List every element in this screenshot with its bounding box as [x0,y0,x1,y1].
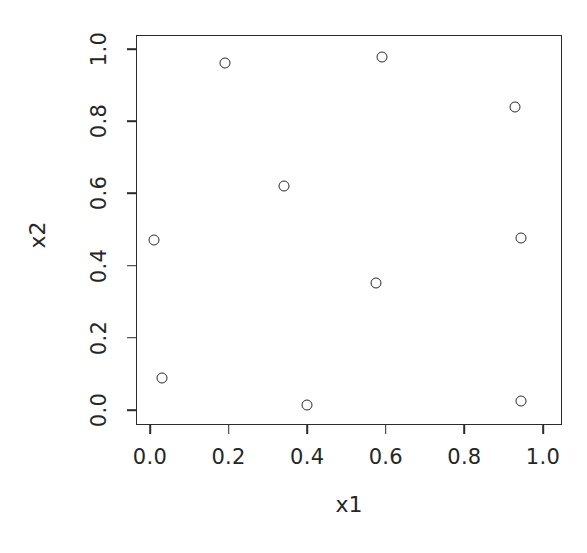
data-point [516,396,527,407]
y-axis-title: x2 [27,221,49,248]
y-axis-tick [127,337,136,339]
data-point [516,232,527,243]
data-point [376,52,387,63]
x-axis-tick [542,425,544,434]
x-axis-tick-label: 0.8 [447,447,481,468]
x-axis-tick-label: 0.6 [369,447,403,468]
y-axis-tick-label: 0.2 [89,321,110,355]
y-axis-tick-label: 0.8 [89,104,110,138]
x-axis-tick [306,425,308,434]
x-axis-title: x1 [335,494,362,516]
data-point [219,58,230,69]
x-axis-tick-label: 0.0 [133,447,167,468]
data-point [148,234,159,245]
y-axis-tick [127,120,136,122]
x-axis-tick [149,425,151,434]
x-axis-tick-label: 0.2 [211,447,245,468]
y-axis-tick-label: 1.0 [89,32,110,66]
scatter-plot-figure: 0.00.20.40.60.81.0 0.00.20.40.60.81.0 x1… [0,0,587,553]
x-axis-tick-label: 0.4 [290,447,324,468]
y-axis-tick [127,265,136,267]
y-axis-tick [127,193,136,195]
data-point [156,372,167,383]
x-axis-tick [385,425,387,434]
data-point [510,102,521,113]
data-point [302,400,313,411]
data-point [370,277,381,288]
plot-panel [136,35,562,425]
x-axis-tick [464,425,466,434]
y-axis-tick [127,409,136,411]
x-axis-tick [228,425,230,434]
y-axis-tick-label: 0.6 [89,176,110,210]
y-axis-tick [127,48,136,50]
x-axis-tick-label: 1.0 [526,447,560,468]
data-point [278,180,289,191]
y-axis-tick-label: 0.0 [89,393,110,427]
y-axis-tick-label: 0.4 [89,248,110,282]
